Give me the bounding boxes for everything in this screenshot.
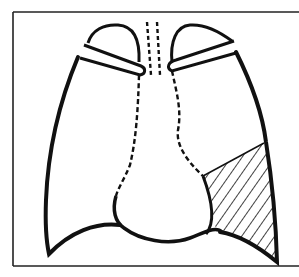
- chest-diagram: [0, 0, 299, 277]
- shaded-region: [195, 135, 285, 270]
- trachea: [147, 22, 160, 75]
- mediastinum-dashed: [116, 71, 203, 196]
- right-clavicle: [80, 25, 145, 75]
- heart-outline: [114, 196, 222, 242]
- right-lung-outline: [46, 57, 120, 254]
- left-clavicle: [169, 25, 236, 71]
